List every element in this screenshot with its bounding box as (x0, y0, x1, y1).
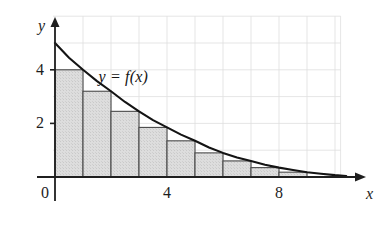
curve-annotation-label: y = f(x) (98, 69, 148, 85)
y-tick-label: 4 (36, 62, 44, 78)
x-tick-label: 8 (275, 185, 283, 201)
y-tick-label: 2 (36, 115, 44, 131)
y-axis-label: y (38, 18, 45, 34)
x-tick-label: 4 (163, 185, 171, 201)
figure-riemann-sum: y x y = f(x) 24048 (0, 0, 385, 237)
x-tick-label: 0 (41, 185, 49, 201)
x-axis-label: x (366, 186, 373, 202)
plot-canvas (0, 0, 385, 237)
